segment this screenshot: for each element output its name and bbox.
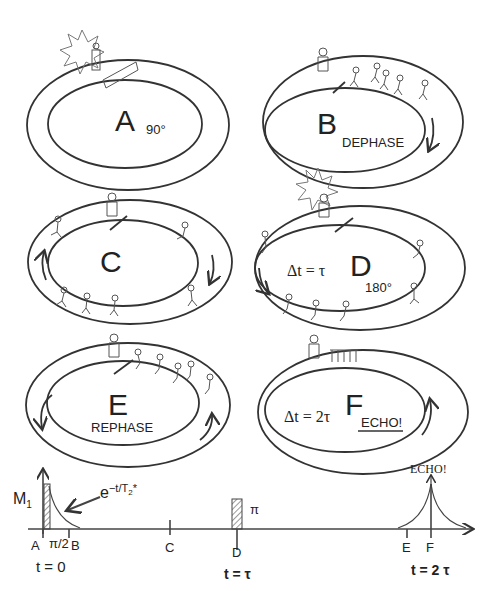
track-B: [263, 56, 463, 188]
pulse-180: [232, 499, 242, 529]
tick-B: B: [71, 538, 80, 553]
tick-E: E: [402, 540, 411, 555]
pulse1-label: π/2: [49, 536, 69, 551]
panel-delta-D: Δt = τ: [287, 262, 325, 280]
panel-letter-C: C: [100, 245, 122, 279]
time-tau: t = τ: [224, 566, 251, 582]
panel-caption-F: ECHO!: [361, 415, 402, 430]
time-2tau: t = 2 τ: [411, 562, 450, 578]
tick-C: C: [165, 540, 174, 555]
runner-figures: [51, 43, 428, 394]
panel-letter-E: E: [108, 388, 128, 422]
tick-A: A: [31, 538, 40, 553]
panel-caption-E: REPHASE: [91, 420, 153, 435]
y-axis-label: M1: [13, 490, 32, 510]
panel-caption-B: DEPHASE: [342, 135, 404, 150]
tick-F: F: [426, 540, 434, 555]
echo-label: ECHO!: [410, 462, 447, 477]
panel-caption-D: 180°: [365, 280, 392, 295]
pulse2-label: π: [250, 502, 259, 517]
time-zero: t = 0: [36, 558, 66, 575]
decay-label: e−t/T2*: [100, 482, 137, 502]
panel-caption-A: 90°: [146, 122, 166, 137]
panel-letter-B: B: [317, 107, 337, 141]
panel-delta-F: Δt = 2τ: [284, 408, 330, 426]
tick-D: D: [232, 545, 241, 560]
panel-letter-D: D: [350, 249, 372, 283]
track-C: [28, 200, 232, 324]
pulse-90: [44, 484, 50, 529]
spin-echo-diagram: [0, 0, 494, 591]
panel-letter-A: A: [115, 104, 135, 138]
